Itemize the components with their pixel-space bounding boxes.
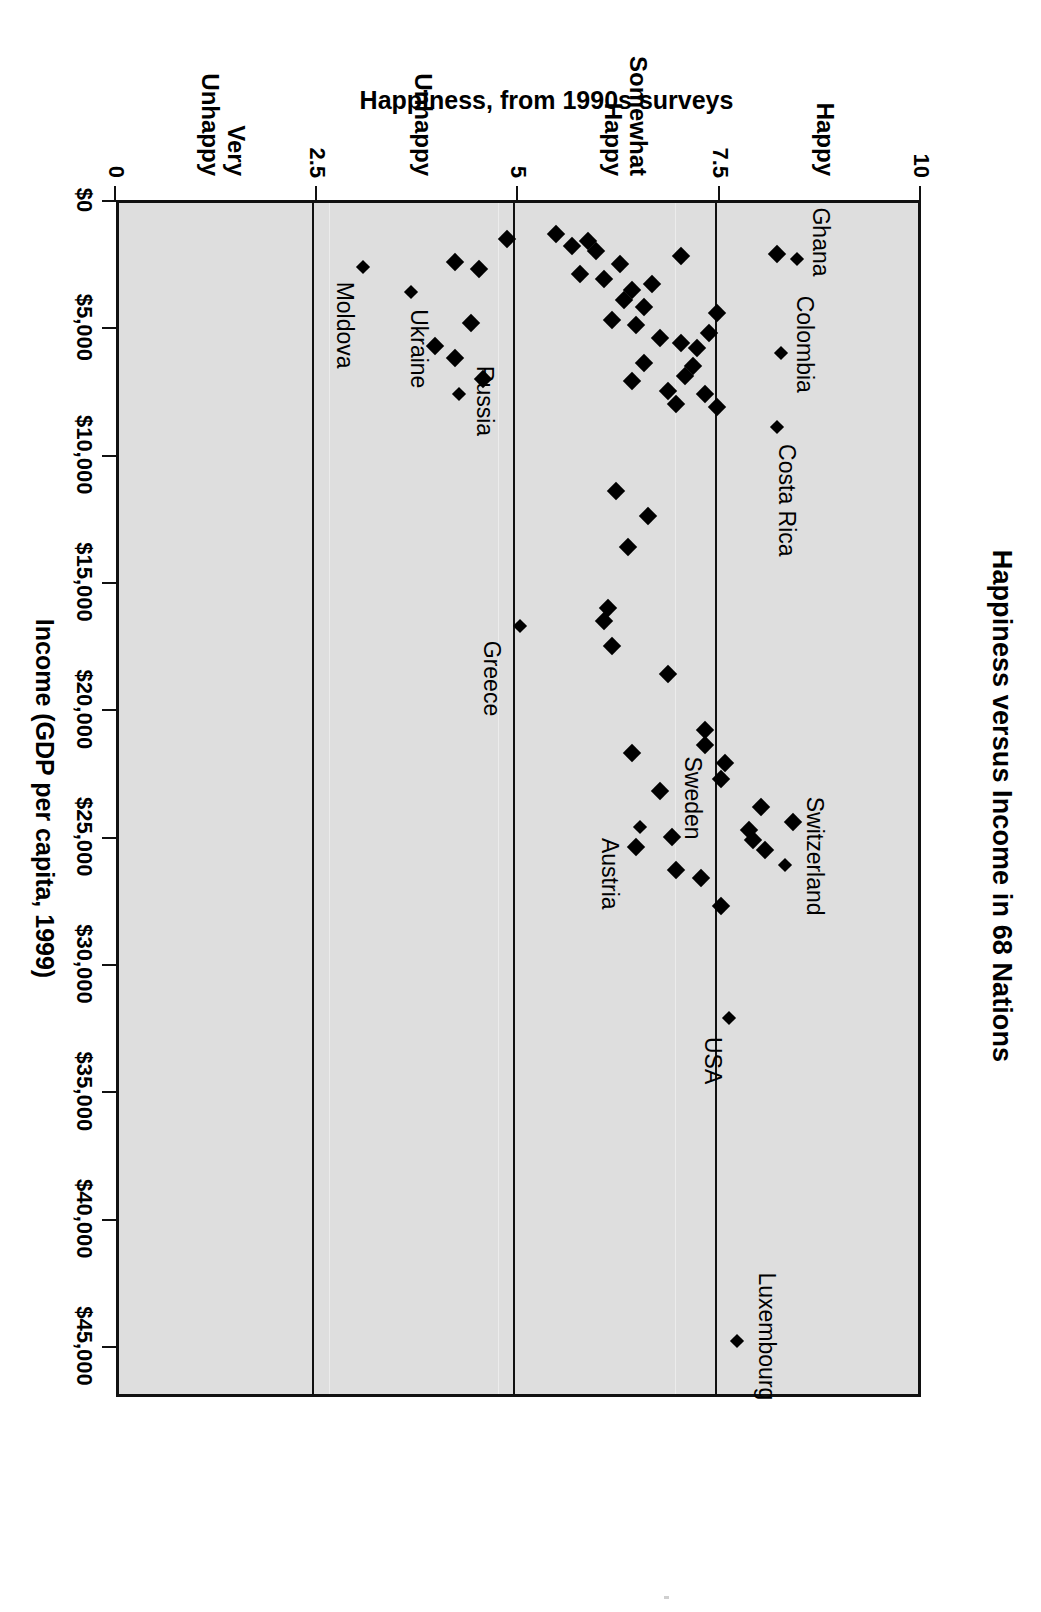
data-point — [603, 311, 621, 329]
data-point — [547, 224, 565, 242]
x-tick-label: $30,000 — [71, 924, 97, 1004]
point-label-usa: USA — [698, 1037, 725, 1084]
scan-seam — [676, 203, 677, 1394]
x-tick-label: $25,000 — [71, 797, 97, 877]
x-tick — [102, 1346, 116, 1348]
data-point — [778, 858, 792, 872]
point-label-ghana: Ghana — [807, 207, 834, 276]
data-point — [571, 265, 589, 283]
data-point — [722, 1011, 736, 1025]
page-title: Happiness versus Income in 68 Nations — [986, 0, 1017, 1612]
point-label-moldova: Moldova — [330, 282, 357, 369]
data-point — [611, 255, 629, 273]
data-point — [774, 346, 788, 360]
point-label-costa-rica: Costa Rica — [773, 444, 800, 556]
data-point — [651, 782, 669, 800]
y-tick — [315, 186, 317, 200]
y-tick — [517, 186, 519, 200]
x-tick — [102, 964, 116, 966]
y-category-label: Happy — [813, 26, 838, 176]
data-point — [671, 334, 689, 352]
chart-canvas: Happiness versus Income in 68 Nations In… — [0, 0, 1041, 1612]
x-tick-label: $35,000 — [71, 1052, 97, 1132]
data-point — [446, 252, 464, 270]
data-point — [730, 1334, 744, 1348]
x-tick-label: $5,000 — [71, 294, 97, 361]
x-axis-title: Income (GDP per capita, 1999) — [30, 200, 59, 1397]
point-label-greece: Greece — [477, 641, 504, 716]
y-tick-label: 7.5 — [707, 108, 733, 178]
data-point — [651, 329, 669, 347]
data-point — [446, 349, 464, 367]
gridline-happiness-5 — [514, 203, 516, 1394]
gridline-happiness-7.5 — [715, 203, 717, 1394]
x-tick-label: $0 — [71, 188, 97, 212]
data-point — [752, 797, 770, 815]
scan-seam — [329, 203, 330, 1394]
y-category-label: SomewhatHappy — [600, 26, 651, 176]
data-point — [695, 721, 713, 739]
data-point — [635, 298, 653, 316]
rotated-page-wrapper: Happiness versus Income in 68 Nations In… — [0, 0, 1041, 1612]
x-tick — [102, 327, 116, 329]
data-point — [716, 754, 734, 772]
point-label-ukraine: Ukraine — [404, 309, 431, 388]
data-point — [607, 482, 625, 500]
point-label-austria: Austria — [596, 838, 623, 910]
scan-speck — [664, 1596, 669, 1599]
data-point — [627, 316, 645, 334]
y-category-label: VeryUnhappy — [198, 26, 249, 176]
y-axis-title: Happiness, from 1990s surveys — [247, 86, 847, 115]
data-point — [355, 260, 369, 274]
y-tick — [919, 186, 921, 200]
x-tick — [102, 709, 116, 711]
x-tick-label: $40,000 — [71, 1179, 97, 1259]
data-point — [633, 820, 647, 834]
x-tick-label: $20,000 — [71, 670, 97, 750]
x-tick — [102, 1091, 116, 1093]
data-point — [452, 387, 466, 401]
y-tick-label: 0 — [103, 108, 129, 178]
data-point — [462, 313, 480, 331]
x-tick — [102, 1219, 116, 1221]
x-tick — [102, 200, 116, 202]
data-point — [708, 303, 726, 321]
data-point — [667, 861, 685, 879]
y-tick-label: 5 — [506, 108, 532, 178]
data-point — [790, 252, 804, 266]
data-point — [470, 260, 488, 278]
x-tick-label: $15,000 — [71, 542, 97, 622]
data-point — [639, 507, 657, 525]
data-point — [595, 270, 613, 288]
x-tick-label: $45,000 — [71, 1306, 97, 1386]
point-label-switzerland: Switzerland — [801, 797, 828, 916]
point-label-colombia: Colombia — [791, 296, 818, 393]
data-point — [691, 869, 709, 887]
data-point — [404, 285, 418, 299]
x-tick — [102, 837, 116, 839]
data-point — [603, 637, 621, 655]
data-point — [623, 744, 641, 762]
y-tick-label: 10 — [908, 108, 934, 178]
point-label-russia: Russia — [471, 366, 498, 436]
data-point — [643, 275, 661, 293]
data-point — [784, 813, 802, 831]
y-tick — [718, 186, 720, 200]
y-tick — [114, 186, 116, 200]
data-point — [627, 838, 645, 856]
point-label-sweden: Sweden — [679, 756, 706, 839]
data-point — [623, 372, 641, 390]
data-point — [635, 354, 653, 372]
x-tick-label: $10,000 — [71, 415, 97, 495]
data-point — [619, 538, 637, 556]
y-category-label: Unhappy — [410, 26, 435, 176]
data-point — [695, 385, 713, 403]
data-point — [768, 245, 786, 263]
x-tick — [102, 455, 116, 457]
data-point — [770, 420, 784, 434]
gridline-happiness-2.5 — [312, 203, 314, 1394]
x-tick — [102, 582, 116, 584]
point-label-luxembourg: Luxembourg — [753, 1272, 780, 1400]
scan-seam — [498, 203, 499, 1394]
data-point — [687, 339, 705, 357]
